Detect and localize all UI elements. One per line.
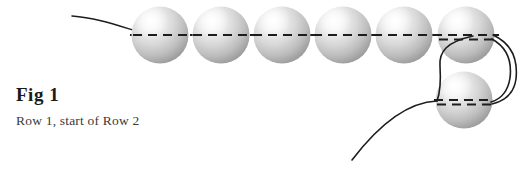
thread-loop-right-inner [491, 39, 510, 102]
figure-container: Fig 1 Row 1, start of Row 2 [0, 0, 532, 171]
thread-tail-bottom [352, 101, 437, 160]
figure-description: Row 1, start of Row 2 [16, 112, 236, 130]
caption: Fig 1 Row 1, start of Row 2 [16, 84, 236, 130]
figure-label: Fig 1 [16, 84, 236, 106]
